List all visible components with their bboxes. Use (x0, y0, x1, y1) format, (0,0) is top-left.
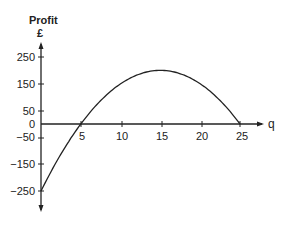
y-tick-label: 250 (17, 51, 35, 63)
x-tick-label: 15 (156, 130, 168, 142)
x-tick-label: 5 (79, 130, 85, 142)
y-tick-label: −150 (10, 158, 35, 170)
x-tick-label: 20 (196, 130, 208, 142)
y-tick-label: −250 (10, 185, 35, 197)
y-axis-unit: £ (37, 27, 43, 39)
y-tick-label: 0 (29, 118, 35, 130)
x-tick-label: 10 (116, 130, 128, 142)
profit-chart: Profit £ q 250 150 50 0 −50 −150 −250 5 … (0, 0, 281, 225)
y-axis-arrow-down-icon (39, 205, 44, 212)
x-axis-arrow-icon (257, 122, 264, 127)
y-tick-label: 50 (23, 105, 35, 117)
y-tick-labels: 250 150 50 0 −50 −150 −250 (10, 51, 35, 197)
profit-curve (41, 70, 240, 191)
x-axis-title: q (268, 117, 275, 131)
x-tick-labels: 5 10 15 20 25 (79, 130, 248, 142)
y-tick-label: −50 (16, 131, 35, 143)
y-axis-arrow-up-icon (39, 42, 44, 49)
y-tick-label: 150 (17, 78, 35, 90)
x-tick-label: 25 (236, 130, 248, 142)
y-axis-title: Profit (29, 14, 58, 26)
